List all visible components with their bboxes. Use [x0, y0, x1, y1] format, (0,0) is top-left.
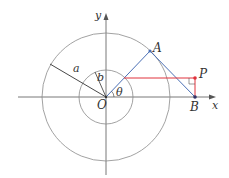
radius-b-label: b — [97, 72, 104, 83]
point-A — [148, 49, 151, 52]
radius-a-label: a — [73, 63, 80, 74]
angle-theta-label: θ — [116, 87, 123, 98]
point-B — [193, 95, 197, 99]
angle-theta-arc — [112, 91, 114, 97]
point-B-label: B — [190, 101, 199, 113]
line-AB — [150, 51, 195, 97]
point-P — [193, 76, 197, 80]
origin-label: O — [97, 99, 107, 111]
point-A-label: A — [153, 42, 162, 54]
line-OA — [106, 51, 150, 97]
y-axis-label: y — [95, 10, 101, 21]
point-P-label: P — [199, 68, 207, 80]
y-axis-arrow-icon — [104, 13, 109, 20]
diagram-canvas — [0, 0, 229, 178]
x-axis-label: x — [212, 100, 218, 111]
